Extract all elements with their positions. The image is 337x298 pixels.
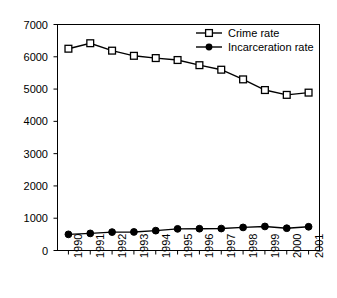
y-axis-tick-label: 4000: [0, 116, 48, 127]
legend-label: Incarceration rate: [228, 42, 314, 53]
data-point-marker: [283, 225, 290, 232]
x-axis-tick-label: 1999: [270, 233, 281, 257]
plot-border: [58, 25, 320, 251]
data-point-marker: [109, 229, 116, 236]
y-axis-tick-label: 6000: [0, 51, 48, 62]
data-point-marker: [152, 227, 159, 234]
x-axis-tick-label: 2001: [314, 233, 325, 257]
x-axis-tick-label: 1996: [204, 233, 215, 257]
data-point-marker: [305, 89, 312, 96]
x-axis-tick-label: 1994: [161, 233, 172, 257]
data-point-marker: [218, 66, 225, 73]
data-point-marker: [109, 47, 116, 54]
y-axis-tick-label: 5000: [0, 84, 48, 95]
legend-marker: [206, 30, 213, 37]
data-point-marker: [65, 231, 72, 238]
x-axis-tick-label: 1990: [73, 233, 84, 257]
data-point-marker: [305, 223, 312, 230]
x-axis-tick-label: 1991: [95, 233, 106, 257]
data-point-marker: [196, 62, 203, 69]
x-axis-tick-label: 1995: [183, 233, 194, 257]
data-point-marker: [283, 91, 290, 98]
x-axis-tick-label: 1998: [248, 233, 259, 257]
data-point-marker: [152, 55, 159, 62]
y-axis-ticks: [54, 25, 58, 251]
y-axis-tick-label: 7000: [0, 19, 48, 30]
data-point-marker: [262, 87, 269, 94]
data-point-marker: [174, 225, 181, 232]
y-axis-tick-label: 2000: [0, 180, 48, 191]
x-axis-tick-label: 1997: [226, 233, 237, 257]
data-point-marker: [65, 45, 72, 52]
y-axis-tick-label: 3000: [0, 148, 48, 159]
data-point-marker: [87, 40, 94, 47]
chart-container: 01000200030004000500060007000 1990199119…: [0, 0, 337, 298]
data-point-marker: [196, 225, 203, 232]
data-point-marker: [131, 52, 138, 59]
data-point-marker: [240, 224, 247, 231]
legend-label: Crime rate: [228, 28, 279, 39]
x-axis-tick-label: 1993: [139, 233, 150, 257]
plot-frame: [58, 25, 320, 251]
x-axis-tick-label: 1992: [117, 233, 128, 257]
y-axis-tick-label: 1000: [0, 213, 48, 224]
data-point-marker: [218, 225, 225, 232]
x-axis-tick-label: 2000: [292, 233, 303, 257]
data-point-marker: [131, 229, 138, 236]
legend-marker: [206, 44, 213, 51]
y-axis-tick-label: 0: [0, 245, 48, 256]
data-point-marker: [87, 230, 94, 237]
data-point-marker: [240, 76, 247, 83]
data-point-marker: [174, 57, 181, 64]
data-point-marker: [262, 223, 269, 230]
